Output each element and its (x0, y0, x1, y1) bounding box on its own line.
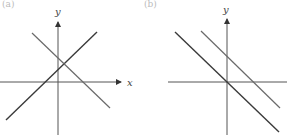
falling-line (32, 33, 110, 108)
left-graph: (a) x y (0, 0, 133, 135)
y-axis-label: y (54, 6, 61, 17)
rising-line (6, 32, 97, 120)
left-panel-label: (a) (2, 0, 14, 9)
shifted-parallel-line (201, 31, 280, 108)
figure-canvas: (a) x y (b) y (0, 0, 287, 135)
x-axis-label: x (127, 77, 133, 88)
right-panel-label: (b) (144, 0, 157, 9)
right-graph: (b) y (144, 0, 287, 135)
y-axis-label: y (222, 4, 229, 15)
